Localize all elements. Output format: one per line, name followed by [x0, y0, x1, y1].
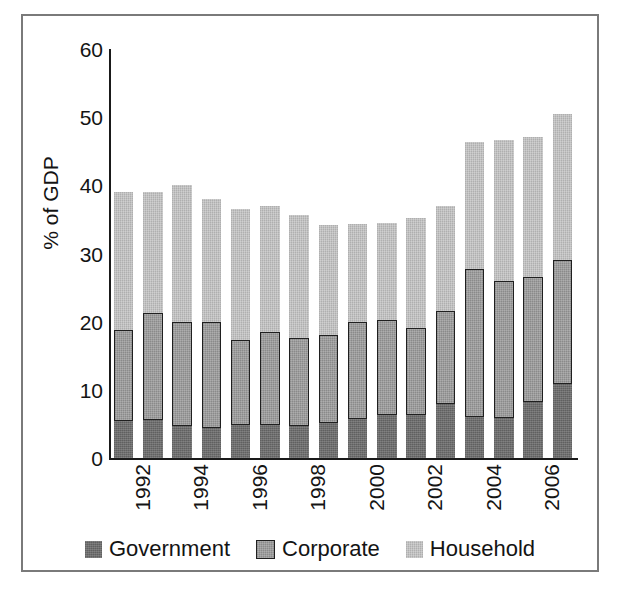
bar-group[interactable] [289, 49, 308, 458]
legend-item[interactable]: Corporate [256, 538, 380, 560]
legend-swatch-government [85, 541, 102, 558]
bar-group[interactable] [319, 49, 338, 458]
x-axis-tick-label: 1998 [307, 464, 328, 511]
bar-segment-government[interactable] [436, 404, 455, 458]
bar-segment-corporate[interactable] [406, 328, 425, 415]
bar-segment-corporate[interactable] [143, 313, 162, 420]
bar-group[interactable] [553, 49, 572, 458]
bar-segment-government[interactable] [465, 417, 484, 458]
bar-segment-corporate[interactable] [348, 322, 367, 419]
bar-group[interactable] [260, 49, 279, 458]
bar-segment-corporate[interactable] [231, 340, 250, 425]
bar-segment-government[interactable] [348, 419, 367, 458]
bar-group[interactable] [172, 49, 191, 458]
x-axis-tick-labels: 19921994199619982000200220042006 [109, 464, 577, 536]
x-axis-line [109, 458, 578, 460]
bar-segment-household[interactable] [289, 215, 308, 338]
bar-segment-household[interactable] [465, 142, 484, 268]
x-axis-tick-label: 2004 [483, 464, 504, 511]
y-axis-tick-label: 60 [80, 39, 103, 60]
bar-group[interactable] [465, 49, 484, 458]
bar-segment-household[interactable] [494, 140, 513, 281]
bar-group[interactable] [377, 49, 396, 458]
bar-segment-household[interactable] [114, 192, 133, 330]
legend-label: Household [430, 538, 535, 560]
bar-segment-government[interactable] [202, 428, 221, 458]
bar-segment-government[interactable] [319, 423, 338, 458]
bar-segment-household[interactable] [231, 209, 250, 340]
legend-swatch-household [406, 541, 423, 558]
bar-segment-government[interactable] [406, 415, 425, 458]
x-axis-tick-label: 2000 [366, 464, 387, 511]
bar-group[interactable] [494, 49, 513, 458]
y-axis-tick-label: 0 [91, 448, 103, 469]
bar-segment-household[interactable] [406, 218, 425, 328]
bar-segment-household[interactable] [319, 225, 338, 335]
bar-segment-government[interactable] [494, 418, 513, 458]
plot-area [109, 49, 577, 458]
x-axis-tick-label: 1994 [190, 464, 211, 511]
bar-segment-government[interactable] [114, 421, 133, 458]
bar-group[interactable] [231, 49, 250, 458]
y-axis-tick-labels: 0102030405060 [51, 49, 103, 458]
bar-group[interactable] [523, 49, 542, 458]
legend-label: Government [109, 538, 230, 560]
x-axis-tick-label: 2006 [541, 464, 562, 511]
y-axis-tick-label: 30 [80, 243, 103, 264]
y-axis-tick-label: 50 [80, 107, 103, 128]
bar-segment-government[interactable] [523, 402, 542, 458]
chart-legend: GovernmentCorporateHousehold [23, 538, 597, 560]
bar-segment-government[interactable] [172, 426, 191, 458]
bar-segment-government[interactable] [260, 425, 279, 458]
bar-group[interactable] [406, 49, 425, 458]
legend-item[interactable]: Government [85, 538, 230, 560]
bar-group[interactable] [436, 49, 455, 458]
x-axis-tick-label: 1996 [249, 464, 270, 511]
bar-group[interactable] [114, 49, 133, 458]
bar-segment-household[interactable] [202, 199, 221, 322]
bar-segment-household[interactable] [436, 206, 455, 312]
bar-segment-government[interactable] [377, 415, 396, 458]
bar-segment-household[interactable] [348, 224, 367, 323]
bar-segment-household[interactable] [143, 192, 162, 313]
bar-segment-corporate[interactable] [553, 260, 572, 384]
bar-segment-corporate[interactable] [114, 330, 133, 421]
bar-group[interactable] [202, 49, 221, 458]
bar-segment-government[interactable] [289, 426, 308, 458]
legend-item[interactable]: Household [406, 538, 535, 560]
x-axis-tick-label: 2002 [424, 464, 445, 511]
bar-segment-corporate[interactable] [465, 269, 484, 418]
bar-segment-government[interactable] [553, 384, 572, 458]
bar-segment-household[interactable] [172, 185, 191, 321]
bar-group[interactable] [348, 49, 367, 458]
bar-segment-corporate[interactable] [494, 281, 513, 417]
bar-segment-corporate[interactable] [202, 322, 221, 428]
bar-segment-corporate[interactable] [436, 311, 455, 404]
bar-segment-corporate[interactable] [289, 338, 308, 426]
y-axis-tick-label: 40 [80, 175, 103, 196]
legend-swatch-corporate [256, 540, 275, 559]
bar-segment-government[interactable] [231, 425, 250, 458]
bar-segment-corporate[interactable] [523, 277, 542, 402]
legend-label: Corporate [282, 538, 380, 560]
bar-segment-household[interactable] [377, 223, 396, 320]
bar-segment-household[interactable] [553, 114, 572, 261]
bar-segment-corporate[interactable] [377, 320, 396, 415]
bar-segment-corporate[interactable] [172, 322, 191, 426]
bar-segment-corporate[interactable] [260, 332, 279, 425]
bar-segment-corporate[interactable] [319, 335, 338, 423]
bar-segment-household[interactable] [523, 137, 542, 277]
bar-group[interactable] [143, 49, 162, 458]
y-axis-tick-label: 20 [80, 311, 103, 332]
bar-segment-household[interactable] [260, 206, 279, 332]
chart-figure-frame: % of GDP 0102030405060 19921994199619982… [21, 14, 599, 572]
x-axis-tick-label: 1992 [132, 464, 153, 511]
bar-segment-government[interactable] [143, 420, 162, 458]
y-axis-tick-label: 10 [80, 379, 103, 400]
